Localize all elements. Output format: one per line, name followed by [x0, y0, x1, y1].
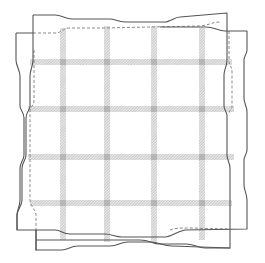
vertical-stripes [60, 26, 205, 242]
fabric-outline-b-left [16, 33, 24, 230]
vertical-stripe [104, 26, 110, 242]
fabric-diagram [0, 0, 265, 263]
vertical-stripe [151, 26, 157, 242]
stripe-crossings [60, 59, 205, 206]
